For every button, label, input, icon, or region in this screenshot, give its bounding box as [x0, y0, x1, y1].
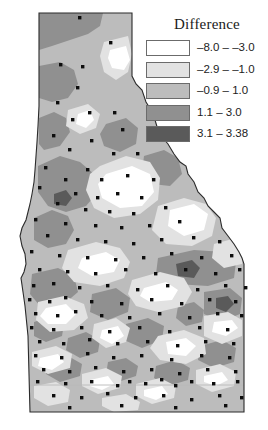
legend-item: 1.1 – 3.0	[146, 104, 264, 122]
legend-swatch-2	[146, 62, 190, 78]
legend-title: Difference	[150, 16, 264, 33]
legend-label-5: 3.1 – 3.38	[197, 128, 248, 140]
legend-item: 3.1 – 3.38	[146, 125, 264, 143]
legend: Difference –8.0 – –3.0 –2.9 – –1.0 –0.9 …	[146, 16, 264, 147]
legend-swatch-1	[146, 40, 190, 56]
legend-label-2: –2.9 – –1.0	[197, 64, 255, 76]
figure-root: Difference –8.0 – –3.0 –2.9 – –1.0 –0.9 …	[0, 0, 268, 430]
legend-label-4: 1.1 – 3.0	[197, 107, 242, 119]
legend-item: –2.9 – –1.0	[146, 61, 264, 79]
legend-item: –8.0 – –3.0	[146, 39, 264, 57]
legend-label-1: –8.0 – –3.0	[197, 42, 255, 54]
legend-item: –0.9 – 1.0	[146, 82, 264, 100]
legend-swatch-3	[146, 83, 190, 99]
legend-label-3: –0.9 – 1.0	[197, 85, 248, 97]
legend-swatch-5	[146, 126, 190, 142]
legend-swatch-4	[146, 105, 190, 121]
